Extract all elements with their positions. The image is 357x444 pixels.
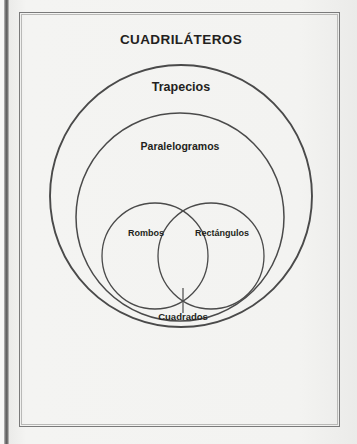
venn-diagram (0, 0, 357, 444)
label-trapecios: Trapecios (152, 80, 210, 94)
label-rombos: Rombos (128, 228, 164, 238)
label-cuadrados: Cuadrados (158, 311, 208, 322)
circle-trapecios (50, 65, 312, 327)
figure-page: CUADRILÁTEROS Trapecios Paralelogramos R… (0, 0, 357, 444)
label-paralelogramos: Paralelogramos (141, 140, 220, 152)
page-title: CUADRILÁTEROS (120, 32, 242, 47)
circle-rectangulos (158, 203, 264, 309)
circle-rombos (102, 203, 208, 309)
label-rectangulos: Rectángulos (195, 228, 249, 238)
